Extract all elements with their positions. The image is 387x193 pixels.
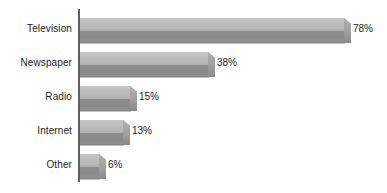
bar-top-face — [80, 18, 345, 31]
category-label: Radio — [0, 91, 72, 103]
bar-chart: Television 78% Newspaper 38% Radio 15% — [0, 0, 387, 193]
bar-row[interactable]: Internet 13% — [0, 116, 387, 150]
category-label: Internet — [0, 125, 72, 137]
bar-internet[interactable] — [80, 120, 124, 145]
bar-end-cap — [344, 18, 351, 43]
bar-value-label: 15% — [139, 91, 159, 103]
bar-row[interactable]: Newspaper 38% — [0, 48, 387, 82]
bar-top-face — [80, 120, 124, 133]
bar-end-cap — [208, 52, 215, 77]
bar-row[interactable]: Other 6% — [0, 150, 387, 184]
bar-shadow — [80, 144, 124, 146]
category-label: Newspaper — [0, 57, 72, 69]
bar-end-cap — [99, 154, 106, 179]
bar-shadow — [80, 178, 100, 180]
bar-row[interactable]: Television 78% — [0, 14, 387, 48]
bar-top-face — [80, 86, 131, 99]
bar-top-face — [80, 52, 209, 65]
category-label: Other — [0, 159, 72, 171]
category-label: Television — [0, 23, 72, 35]
bar-value-label: 78% — [353, 23, 373, 35]
bar-shadow — [80, 110, 131, 112]
bar-shadow — [80, 42, 345, 44]
bar-top-face — [80, 154, 100, 167]
bar-end-cap — [130, 86, 137, 111]
bar-value-label: 6% — [108, 159, 122, 171]
bar-end-cap — [123, 120, 130, 145]
bar-newspaper[interactable] — [80, 52, 209, 77]
bar-radio[interactable] — [80, 86, 131, 111]
bar-row[interactable]: Radio 15% — [0, 82, 387, 116]
bar-value-label: 13% — [132, 125, 152, 137]
bar-other[interactable] — [80, 154, 100, 179]
bar-television[interactable] — [80, 18, 345, 43]
bar-shadow — [80, 76, 209, 78]
bar-value-label: 38% — [217, 57, 237, 69]
